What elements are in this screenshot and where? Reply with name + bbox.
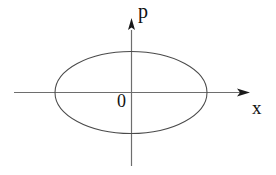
phase-space-figure: p x 0	[0, 0, 276, 175]
origin-label: 0	[117, 92, 126, 110]
p-axis-label: p	[138, 1, 148, 21]
p-axis-arrowhead-icon	[128, 18, 135, 30]
figure-canvas	[0, 0, 276, 175]
x-axis-label: x	[252, 98, 262, 117]
